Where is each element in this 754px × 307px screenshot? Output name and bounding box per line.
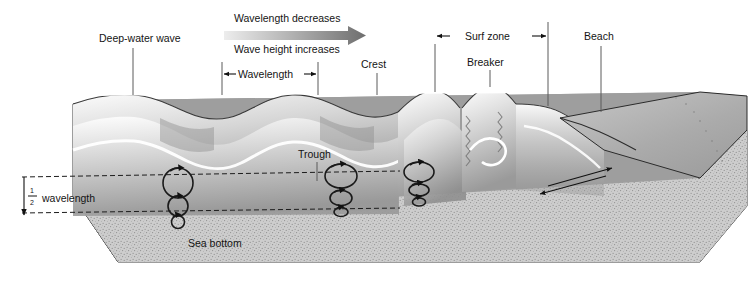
- label-deep-water-wave: Deep-water wave: [99, 32, 181, 95]
- crest-text: Crest: [361, 58, 386, 70]
- wavelength-decreases-text: Wavelength decreases: [234, 12, 340, 24]
- sea-bottom-text: Sea bottom: [188, 237, 242, 249]
- wavelength-text: Wavelength: [238, 68, 293, 80]
- wave-height-increases-text: Wave height increases: [234, 43, 340, 55]
- trough-text: Trough: [298, 148, 331, 160]
- half-wavelength-numerator: 1: [30, 187, 34, 194]
- half-wavelength-denominator: 2: [30, 199, 34, 206]
- label-crest: Crest: [361, 58, 386, 95]
- diagram-canvas: 1 2 wavelength Deep-water wave Wavelengt…: [0, 0, 754, 307]
- deep-water-wave-text: Deep-water wave: [99, 32, 181, 44]
- label-breaker: Breaker: [467, 56, 504, 87]
- half-wavelength-label: wavelength: [41, 192, 95, 204]
- beach-text: Beach: [584, 30, 614, 42]
- wavelength-measure: Wavelength: [222, 62, 318, 95]
- wave-diagram: 1 2 wavelength Deep-water wave Wavelengt…: [0, 0, 754, 307]
- breaker-text: Breaker: [467, 56, 504, 68]
- surf-zone-text: Surf zone: [465, 30, 510, 42]
